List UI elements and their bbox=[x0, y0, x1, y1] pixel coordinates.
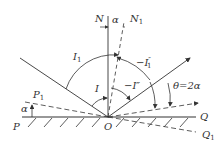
arc-I bbox=[92, 98, 107, 106]
label-Q: Q bbox=[200, 111, 208, 122]
label-N1: N1 bbox=[129, 13, 143, 26]
tilted-reflected-ray bbox=[108, 103, 198, 117]
label-theta: θ=2α bbox=[173, 80, 201, 91]
reflection-diagram: N α N1 I1 −I″1 I −I″ θ=2α P1 α P O Q Q1 bbox=[0, 0, 220, 150]
label-P: P bbox=[12, 121, 20, 132]
label-neg-I1pp: −I″1 bbox=[136, 56, 151, 70]
label-O: O bbox=[104, 121, 112, 132]
label-P1: P1 bbox=[32, 89, 44, 102]
label-alpha-top: α bbox=[112, 14, 119, 25]
label-I: I bbox=[94, 83, 100, 94]
label-alpha-left: α bbox=[21, 103, 28, 114]
tilted-mirror-Q1 bbox=[108, 117, 196, 132]
tilted-mirror-P1 bbox=[25, 102, 108, 117]
label-I1: I1 bbox=[72, 51, 81, 64]
label-Q1: Q1 bbox=[202, 129, 215, 142]
normal-N1-line bbox=[108, 22, 124, 117]
label-N: N bbox=[94, 13, 105, 24]
label-neg-Ipp: −I″ bbox=[124, 80, 140, 91]
